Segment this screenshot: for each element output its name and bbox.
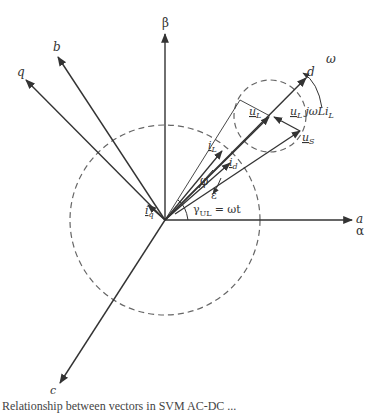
c-axis (60, 220, 165, 383)
d-label: d (307, 65, 315, 79)
epsilon-label: ε (211, 189, 217, 202)
b-axis (58, 57, 165, 220)
omega-label: ω (326, 52, 336, 66)
jwlil-label: uLjωLiL (290, 105, 334, 120)
b-label: b (53, 40, 61, 54)
beta-label: β (162, 16, 169, 30)
us-label: uS (302, 131, 315, 146)
q-label: q (17, 65, 25, 79)
id-label: id (229, 156, 238, 171)
alpha-label: α (356, 224, 364, 238)
gamma-label: γUL= ωt (193, 203, 241, 218)
q-axis (26, 80, 165, 220)
ul-label: uL (249, 105, 261, 120)
jwlil-vector (274, 117, 300, 131)
us-vector (175, 131, 300, 214)
c-label: c (50, 384, 56, 397)
figure-caption: Relationship between vectors in SVM AC-D… (2, 399, 236, 414)
il-label: iL (208, 139, 217, 154)
phi-label: φ (200, 174, 208, 188)
